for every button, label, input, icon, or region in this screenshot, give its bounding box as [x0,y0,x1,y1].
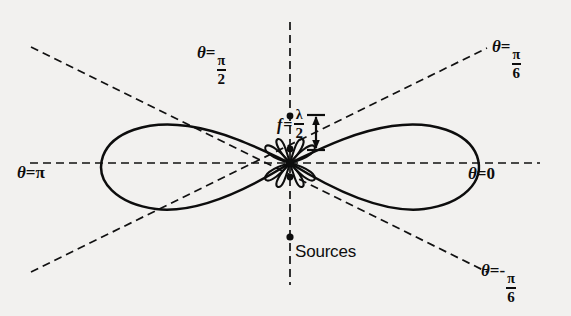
axis-label-theta-pi-half: θ=π2 [197,44,227,87]
fraction-denominator: 2 [217,72,227,87]
fraction-numerator: λ [295,108,304,122]
fraction-pi-over-2: π2 [217,54,227,87]
source-point-lower [287,146,294,153]
fraction-pi-over-6: π6 [512,48,522,81]
source-point-below-origin [287,174,294,181]
fraction-denominator: 6 [506,290,516,305]
axis-label-theta-neg-pi-sixth: θ=-π6 [481,262,517,305]
source-point-lowest [286,233,293,240]
spacing-equals: = [283,117,292,133]
rosette-core [286,159,293,166]
radiation-pattern-figure: θ=π2 θ=π6 θ=-π6 θ=π θ=0 f=λ2 Sources [0,0,571,316]
equals-symbol: = [477,164,487,183]
equals-symbol: = [501,37,511,56]
spacing-arrowhead-down [312,140,320,149]
theta-symbol: θ [197,43,206,62]
zero-value: 0 [487,164,496,183]
fraction-numerator: π [506,272,516,286]
spacing-dimension-arrow [307,115,325,150]
equals-symbol: = [206,43,216,62]
fraction-denominator: 6 [512,66,522,81]
pi-symbol: π [36,163,45,182]
equals-symbol: = [490,261,500,280]
axis-label-theta-pi-sixth: θ=π6 [492,38,522,81]
main-lobe-right [290,124,479,209]
sources-label: Sources [295,243,356,260]
spacing-annotation: f=λ2 [277,108,305,141]
spacing-variable: f [277,117,282,133]
equals-symbol: = [26,163,36,182]
axis-label-theta-pi: θ=π [17,164,45,181]
minus-sign: - [500,261,506,280]
fraction-numerator: π [512,48,522,62]
axis-label-theta-zero: θ=0 [468,165,495,182]
fraction-pi-over-6: π6 [506,272,516,305]
main-lobe-left [101,124,290,209]
theta-symbol: θ [481,261,490,280]
reference-axes [30,22,540,285]
fraction-numerator: π [217,54,227,68]
spacing-arrowhead-up [312,116,320,125]
theta-symbol: θ [492,37,501,56]
theta-symbol: θ [468,164,477,183]
theta-symbol: θ [17,163,26,182]
fraction-denominator: 2 [294,126,304,141]
fraction-lambda-over-2: λ2 [294,108,304,141]
